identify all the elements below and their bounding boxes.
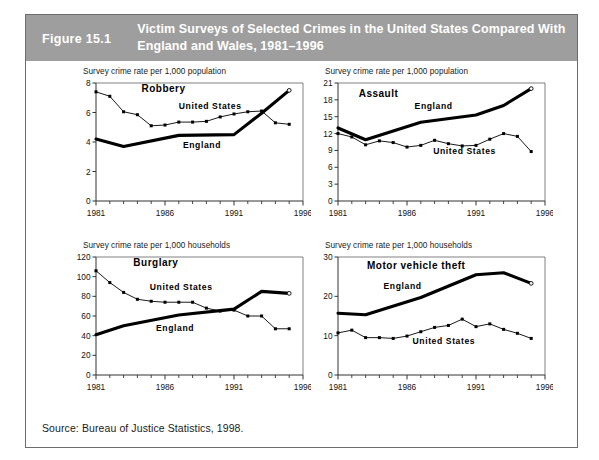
source-note: Source: Bureau of Justice Statistics, 19…: [42, 422, 244, 434]
svg-text:80: 80: [81, 291, 91, 301]
svg-text:England: England: [384, 281, 422, 291]
svg-text:1991: 1991: [467, 208, 486, 218]
svg-text:England: England: [156, 323, 194, 333]
svg-text:1996: 1996: [536, 382, 553, 392]
svg-text:1986: 1986: [156, 208, 175, 218]
svg-text:8: 8: [86, 78, 91, 88]
chart-assault: Survey crime rate per 1,000 population 0…: [308, 67, 553, 235]
svg-text:England: England: [415, 101, 453, 111]
svg-text:2: 2: [86, 167, 91, 177]
chart-burglary: Survey crime rate per 1,000 households 0…: [66, 241, 311, 409]
svg-text:Motor vehicle theft: Motor vehicle theft: [367, 260, 466, 271]
chart-burglary-plot: 0204060801001201981198619911996BurglaryU…: [66, 251, 311, 403]
svg-text:0: 0: [86, 370, 91, 380]
svg-text:England: England: [183, 140, 221, 150]
chart-motor-vehicle-theft-axis-caption: Survey crime rate per 1,000 households: [325, 241, 553, 250]
figure-body: Survey crime rate per 1,000 population 0…: [26, 61, 577, 448]
svg-text:1986: 1986: [398, 208, 417, 218]
svg-text:100: 100: [77, 272, 91, 282]
svg-text:6: 6: [328, 162, 333, 172]
svg-text:6: 6: [86, 108, 91, 118]
svg-text:1981: 1981: [87, 208, 106, 218]
svg-text:1986: 1986: [156, 382, 175, 392]
svg-text:10: 10: [323, 331, 333, 341]
svg-text:1991: 1991: [467, 382, 486, 392]
svg-text:0: 0: [86, 196, 91, 206]
svg-text:12: 12: [323, 129, 333, 139]
svg-text:15: 15: [323, 112, 333, 122]
svg-text:1986: 1986: [398, 382, 417, 392]
svg-text:0: 0: [328, 370, 333, 380]
svg-text:3: 3: [328, 179, 333, 189]
chart-assault-axis-caption: Survey crime rate per 1,000 population: [325, 67, 553, 76]
svg-text:40: 40: [81, 331, 91, 341]
svg-text:0: 0: [328, 196, 333, 206]
svg-text:1991: 1991: [225, 208, 244, 218]
svg-text:1981: 1981: [87, 382, 106, 392]
figure-number: Figure 15.1: [42, 31, 111, 46]
svg-text:United States: United States: [433, 146, 496, 156]
svg-text:1991: 1991: [225, 382, 244, 392]
chart-assault-plot: 0369121518211981198619911996AssaultEngla…: [308, 77, 553, 229]
svg-text:18: 18: [323, 95, 333, 105]
chart-robbery-plot: 024681981198619911996RobberyUnited State…: [66, 77, 311, 229]
svg-text:Robbery: Robbery: [142, 83, 186, 94]
svg-text:United States: United States: [413, 336, 476, 346]
svg-text:Assault: Assault: [359, 88, 399, 99]
chart-robbery-axis-caption: Survey crime rate per 1,000 population: [83, 67, 311, 76]
svg-text:1996: 1996: [536, 208, 553, 218]
svg-text:20: 20: [81, 350, 91, 360]
svg-text:30: 30: [323, 252, 333, 262]
figure-container: Figure 15.1 Victim Surveys of Selected C…: [25, 14, 578, 448]
chart-motor-vehicle-theft: Survey crime rate per 1,000 households 0…: [308, 241, 553, 409]
svg-text:1981: 1981: [329, 382, 348, 392]
svg-text:120: 120: [77, 252, 91, 262]
svg-text:20: 20: [323, 291, 333, 301]
chart-robbery: Survey crime rate per 1,000 population 0…: [66, 67, 311, 235]
svg-text:United States: United States: [150, 282, 213, 292]
svg-text:Burglary: Burglary: [133, 257, 178, 268]
svg-text:21: 21: [323, 78, 333, 88]
svg-text:60: 60: [81, 311, 91, 321]
figure-title: Victim Surveys of Selected Crimes in the…: [137, 21, 577, 55]
svg-text:9: 9: [328, 145, 333, 155]
figure-header: Figure 15.1 Victim Surveys of Selected C…: [26, 15, 577, 61]
svg-text:United States: United States: [179, 101, 242, 111]
chart-burglary-axis-caption: Survey crime rate per 1,000 households: [83, 241, 311, 250]
chart-motor-vehicle-theft-plot: 01020301981198619911996Motor vehicle the…: [308, 251, 553, 403]
svg-text:4: 4: [86, 137, 91, 147]
svg-text:1981: 1981: [329, 208, 348, 218]
